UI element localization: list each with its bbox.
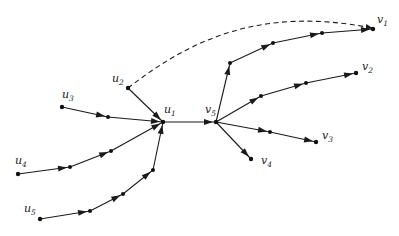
node-label-u3: u3 (62, 88, 74, 103)
intermediate-node (68, 165, 72, 169)
intermediate-node (88, 209, 92, 213)
intermediate-node (320, 31, 324, 35)
arrowhead-icon (294, 83, 303, 89)
node-label-v4: v4 (261, 154, 272, 169)
node-label-u5: u5 (24, 202, 36, 217)
intermediate-node (268, 130, 272, 134)
arrowhead-icon (258, 127, 267, 133)
directed-graph-diagram: u1u2u3u4u5v5v1v2v3v4 (0, 0, 399, 236)
node-label-u4: u4 (15, 154, 27, 169)
node-u1 (161, 120, 165, 124)
node-u2 (126, 86, 130, 90)
intermediate-node (121, 192, 125, 196)
intermediate-node (109, 149, 113, 153)
node-v2 (354, 71, 358, 75)
arrowhead-icon (204, 119, 213, 125)
node-v1 (371, 27, 375, 31)
nodes-layer (16, 27, 375, 221)
intermediate-node (304, 81, 308, 85)
labels-layer: u1u2u3u4u5v5v1v2v3v4 (15, 13, 388, 217)
node-label-u1: u1 (164, 103, 176, 118)
node-u5 (38, 217, 42, 221)
arrowhead-icon (151, 123, 160, 130)
dashed-edge-u2-v1 (128, 21, 372, 88)
arrowhead-icon (58, 166, 67, 172)
intermediate-node (228, 61, 232, 65)
arrowhead-icon (99, 152, 108, 158)
node-label-v5: v5 (205, 103, 216, 118)
node-v3 (314, 140, 318, 144)
arrowhead-icon (78, 210, 87, 216)
arrowhead-icon (142, 172, 151, 180)
intermediate-node (151, 168, 155, 172)
node-u4 (16, 172, 20, 176)
arrowhead-icon (261, 44, 270, 51)
edges-layer (18, 27, 373, 219)
node-label-v1: v1 (377, 13, 388, 28)
node-label-u2: u2 (112, 72, 124, 87)
arrowhead-icon (111, 195, 120, 202)
arrowhead-icon (304, 137, 313, 143)
node-label-v3: v3 (322, 129, 333, 144)
node-label-v2: v2 (362, 60, 373, 75)
intermediate-node (106, 115, 110, 119)
node-u3 (60, 105, 64, 109)
intermediate-node (259, 94, 263, 98)
arrowhead-icon (344, 72, 353, 78)
node-v4 (249, 157, 253, 161)
intermediate-node (271, 41, 275, 45)
arrowhead-icon (224, 66, 230, 75)
arrowhead-icon (96, 112, 105, 118)
node-v5 (214, 120, 218, 124)
arrowhead-icon (249, 98, 258, 105)
